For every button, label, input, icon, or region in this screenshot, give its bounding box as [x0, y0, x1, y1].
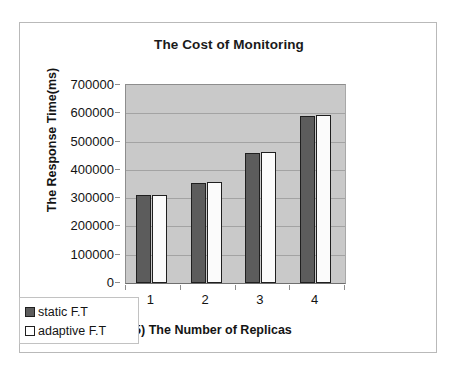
y-axis-tick-label: 600000 [71, 105, 114, 120]
x-axis-tick-mark [289, 285, 290, 290]
chart-legend: static F.T adaptive F.T [19, 297, 139, 344]
bar-adaptive-1 [152, 195, 167, 283]
x-axis-tick-labels: 1234 [125, 285, 344, 305]
y-axis-tick-label: 500000 [71, 133, 114, 148]
x-axis-tick-mark [125, 285, 126, 290]
y-axis-tick-label: 300000 [71, 190, 114, 205]
y-axis-tick-label: 700000 [71, 77, 114, 92]
y-axis-tick-label: 200000 [71, 218, 114, 233]
y-axis-tick-mark [115, 84, 120, 85]
y-axis-tick-mark [115, 141, 120, 142]
bar-group [236, 85, 291, 283]
y-axis-tick-label: 0 [107, 275, 114, 290]
y-axis-tick-mark [115, 282, 120, 283]
bar-static-1 [136, 195, 151, 283]
bar-series-layer [126, 85, 345, 283]
bar-adaptive-4 [316, 115, 331, 283]
bar-static-2 [191, 183, 206, 283]
legend-item-static: static F.T [25, 302, 134, 321]
legend-item-adaptive: adaptive F.T [25, 321, 134, 340]
plot-area [125, 84, 346, 284]
legend-item-label: static F.T [38, 305, 88, 319]
y-axis-tick-mark [115, 112, 120, 113]
y-axis-tick-label: 400000 [71, 161, 114, 176]
bar-group [126, 85, 181, 283]
white-square-icon [25, 326, 35, 336]
y-axis-tick-mark [115, 197, 120, 198]
x-axis-tick-label: 4 [311, 292, 318, 307]
bar-group [181, 85, 236, 283]
x-axis-tick-mark [344, 285, 345, 290]
bar-static-4 [300, 116, 315, 283]
y-axis-tick-labels: 7000006000005000004000003000002000001000… [48, 84, 120, 282]
x-axis-tick-mark [235, 285, 236, 290]
chart-title: The Cost of Monitoring [20, 37, 438, 52]
bar-adaptive-3 [261, 152, 276, 283]
x-axis-tick-label: 1 [147, 292, 154, 307]
y-axis-tick-mark [115, 225, 120, 226]
dark-gray-square-icon [25, 307, 35, 317]
bar-static-3 [245, 153, 260, 283]
y-axis-tick-mark [115, 169, 120, 170]
bar-group [290, 85, 345, 283]
y-axis-tick-mark [115, 254, 120, 255]
legend-item-label: adaptive F.T [38, 324, 106, 338]
x-axis-title: (x5) The Number of Replicas [123, 323, 292, 337]
x-axis-tick-label: 2 [202, 292, 209, 307]
bar-adaptive-2 [207, 182, 222, 283]
x-axis-tick-mark [180, 285, 181, 290]
x-axis-tick-label: 3 [256, 292, 263, 307]
y-axis-tick-label: 100000 [71, 246, 114, 261]
